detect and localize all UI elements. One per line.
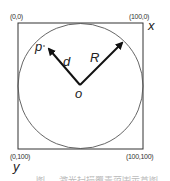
point-p-label: p [35, 40, 42, 53]
corner-label-bottom-right: (100,100) [126, 153, 153, 160]
point-p-dot [43, 45, 45, 47]
x-axis-label: x [148, 19, 155, 32]
figure-caption-text: 图 … 激光扫描覆盖范围示意图 [0, 176, 170, 181]
corner-label-top-left: (0,0) [10, 13, 23, 20]
circle-in-square-diagram: (0,0) (100,0) (0,100) (100,100) x y p d … [0, 0, 170, 181]
radius-R-label: R [90, 51, 99, 64]
radius-vector-R [80, 43, 122, 85]
y-axis-label: y [13, 160, 20, 173]
corner-label-top-right: (100,0) [129, 13, 149, 20]
center-o-label: o [75, 87, 82, 100]
distance-d-label: d [63, 55, 70, 68]
figure-caption: 图 … 激光扫描覆盖范围示意图 [0, 176, 170, 181]
